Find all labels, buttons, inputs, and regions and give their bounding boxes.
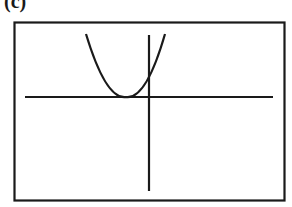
graph-figure [0,0,292,207]
parabola-curve [86,34,165,97]
